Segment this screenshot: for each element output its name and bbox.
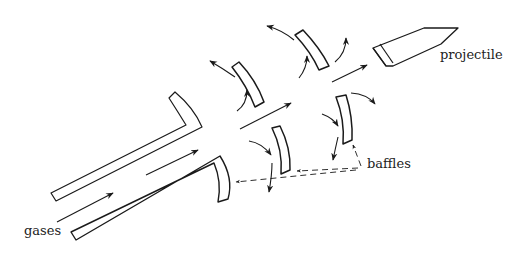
gas-arrow-inlet: [57, 193, 113, 222]
baffle-upper-1: [232, 62, 264, 107]
lower-barrel-wall: [71, 156, 230, 240]
upper-barrel-wall: [51, 92, 202, 201]
deflect-arrow-10: [351, 93, 375, 104]
baffle-lower-2: [336, 95, 352, 144]
leader-line-2: [297, 168, 358, 171]
label-gases: gases: [24, 224, 61, 237]
deflect-arrow-9: [333, 137, 338, 160]
deflect-arrow-7: [269, 163, 272, 192]
deflect-arrow-8: [322, 114, 338, 126]
leader-line-1: [353, 145, 361, 166]
gas-arrow-center-2: [332, 65, 367, 82]
label-baffles: baffles: [367, 157, 411, 170]
label-projectile: projectile: [440, 48, 503, 61]
gas-arrow-center-1: [240, 103, 291, 129]
deflect-arrow-6: [249, 141, 271, 155]
diagram-canvas: [0, 0, 520, 254]
baffle-lower-1: [272, 126, 290, 174]
gas-arrow-barrel: [146, 150, 198, 175]
deflect-arrow-4: [299, 56, 307, 78]
deflect-arrow-2: [237, 90, 247, 111]
leader-line-3: [236, 170, 356, 182]
deflect-arrow-3: [267, 26, 294, 40]
deflect-arrow-5: [335, 38, 346, 62]
deflect-arrow-1: [210, 61, 235, 77]
baffle-upper-2: [295, 30, 329, 70]
